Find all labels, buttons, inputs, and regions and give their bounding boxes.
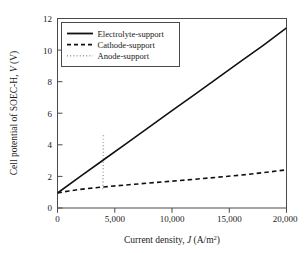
x-tick-group	[58, 208, 287, 213]
line-chart: 0 2 4 6 8 10 12 0 5,000 10,000 15,000 20…	[0, 0, 308, 253]
chart-figure: 0 2 4 6 8 10 12 0 5,000 10,000 15,000 20…	[0, 0, 308, 253]
y-tick-label: 6	[48, 109, 53, 119]
x-tick-label: 5,000	[105, 214, 126, 224]
x-axis: 0 5,000 10,000 15,000 20,000	[55, 208, 298, 224]
y-tick-label: 8	[48, 77, 53, 87]
y-tick-label: 0	[48, 203, 53, 213]
y-tick-label: 2	[48, 172, 53, 182]
y-tick-label: 12	[43, 14, 52, 24]
y-axis: 0 2 4 6 8 10 12	[43, 14, 63, 214]
x-axis-title: Current density, J (A/m2)	[124, 234, 220, 247]
legend: Electrolyte-support Cathode-support Anod…	[62, 23, 180, 67]
legend-item-label: Electrolyte-support	[98, 29, 165, 39]
legend-item-label: Anode-support	[98, 51, 150, 61]
y-axis-title: Cell potential of SOEC-H, V (V)	[9, 51, 20, 176]
legend-item-label: Cathode-support	[98, 40, 156, 50]
y-tick-label: 10	[43, 46, 53, 56]
x-tick-label: 15,000	[217, 214, 242, 224]
series-line-anode-support	[103, 135, 104, 189]
x-tick-label: 0	[55, 214, 60, 224]
x-tick-label: 20,000	[273, 214, 298, 224]
series-line-cathode-support	[58, 170, 287, 193]
x-tick-label: 10,000	[160, 214, 185, 224]
y-tick-label: 4	[48, 140, 53, 150]
